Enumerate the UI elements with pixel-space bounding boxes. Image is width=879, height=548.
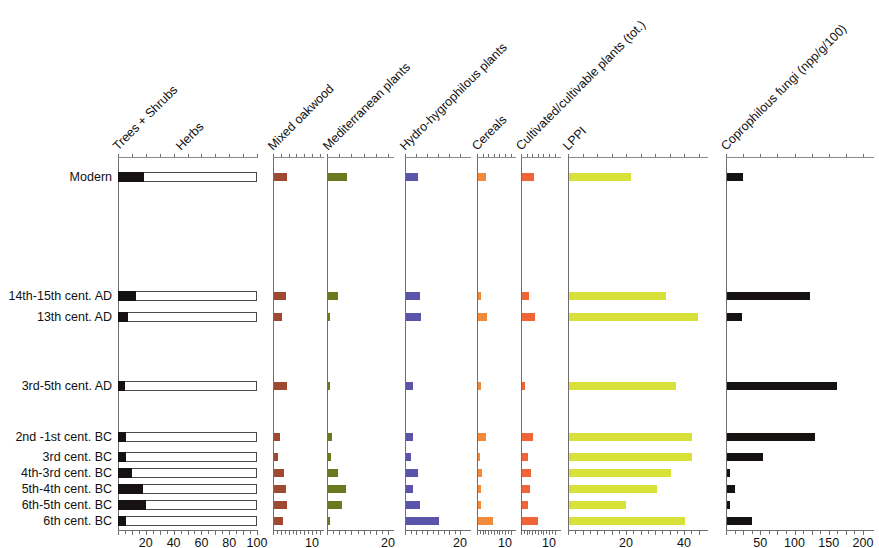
bar-mediterranean-plants (328, 382, 330, 390)
axis-tick-minor (316, 531, 317, 534)
bar-lppi (569, 313, 698, 321)
bar-hydro-hygrophilous-plants (406, 433, 413, 441)
axis-tick-minor (222, 531, 223, 534)
bar-hydro-hygrophilous-plants (406, 173, 418, 181)
bar-trees-shrubs (118, 432, 126, 442)
axis-tick-top (118, 154, 119, 157)
row-label: 2nd -1st cent. BC (15, 431, 112, 444)
axis-tick-minor (633, 531, 634, 534)
axis-tick-minor (535, 531, 536, 534)
axis-tick-label: 60 (194, 536, 208, 548)
axis-tick-top (777, 154, 778, 157)
axis-tick (812, 531, 813, 535)
bar-cereals (478, 453, 480, 461)
axis-tick-label: 100 (784, 536, 805, 548)
axis-tick-minor (604, 531, 605, 534)
axis-tick-top (612, 154, 613, 157)
bar-cultivated-cultivable-plants (522, 433, 533, 441)
axis-tick-minor (803, 531, 804, 534)
pollen-diagram-figure: Modern14th-15th cent. AD13th cent. AD3rd… (0, 0, 879, 548)
bar-cultivated-cultivable-plants (522, 485, 530, 493)
axis-tick-top (388, 154, 389, 157)
axis-tick-minor (619, 531, 620, 534)
axis-tick-minor (854, 531, 855, 534)
axis-tick-minor (345, 531, 346, 534)
bar-mixed-oakwood (274, 469, 284, 477)
axis-tick-top (641, 154, 642, 157)
axis-tick-top (427, 154, 428, 157)
axis-tick (273, 531, 274, 535)
bar-coprophilous-fungi (727, 433, 815, 441)
axis-tick-top (568, 154, 569, 157)
panel-top-rule (118, 157, 258, 158)
axis-tick-minor (250, 531, 251, 534)
bar-mixed-oakwood (274, 485, 286, 493)
bar-hydro-hygrophilous-plants (406, 485, 413, 493)
column-header: Coprophilous fungi (npp/g/100) (718, 22, 849, 153)
axis-tick (699, 531, 700, 535)
axis-tick-top (243, 154, 244, 157)
bar-herbs (118, 291, 257, 301)
axis-tick-minor (236, 531, 237, 534)
bar-cereals (478, 469, 482, 477)
axis-tick (612, 531, 613, 535)
axis-tick-top (364, 154, 365, 157)
axis-tick (296, 531, 297, 535)
axis-tick-top (846, 154, 847, 157)
axis-tick-top (304, 154, 305, 157)
axis-tick (538, 531, 539, 535)
panel-bottom-axis (327, 530, 394, 531)
axis-tick-label: 200 (853, 536, 874, 548)
axis-tick (477, 531, 478, 535)
axis-tick-top (376, 154, 377, 157)
axis-tick (846, 531, 847, 535)
axis-tick-minor (677, 531, 678, 534)
axis-tick-minor (575, 531, 576, 534)
axis-tick (460, 531, 461, 535)
axis-tick (327, 531, 328, 535)
axis-tick-top (655, 154, 656, 157)
bar-mixed-oakwood (274, 453, 278, 461)
axis-tick (511, 531, 512, 535)
axis-tick (583, 531, 584, 535)
bar-mediterranean-plants (328, 313, 330, 321)
bar-cereals (478, 382, 481, 390)
axis-tick-label: 50 (753, 536, 767, 548)
axis-tick-minor (293, 531, 294, 534)
axis-tick-minor (300, 531, 301, 534)
bar-cereals (478, 501, 481, 509)
axis-tick-label: 10 (542, 536, 556, 548)
bar-trees-shrubs (118, 500, 146, 510)
axis-tick (449, 531, 450, 535)
bar-trees-shrubs (118, 468, 132, 478)
axis-tick-top (339, 154, 340, 157)
bar-mediterranean-plants (328, 453, 331, 461)
axis-tick-top (527, 154, 528, 157)
axis-tick-top (829, 154, 830, 157)
bar-trees-shrubs (118, 291, 136, 301)
bar-mixed-oakwood (274, 292, 286, 300)
axis-tick-minor (125, 531, 126, 534)
row-label: 3rd-5th cent. AD (22, 380, 112, 393)
axis-tick-top (257, 154, 258, 157)
axis-tick (416, 531, 417, 535)
axis-tick-label: 20 (453, 536, 467, 548)
axis-tick-label: 150 (818, 536, 839, 548)
axis-tick (655, 531, 656, 535)
row-label: Modern (70, 171, 112, 184)
bar-cereals (478, 313, 487, 321)
axis-tick (543, 531, 544, 535)
axis-tick-minor (333, 531, 334, 534)
axis-tick-top (483, 154, 484, 157)
axis-tick-top (289, 154, 290, 157)
axis-tick-top (543, 154, 544, 157)
column-header: Herbs (173, 120, 206, 153)
bar-cultivated-cultivable-plants (522, 517, 538, 525)
bar-mediterranean-plants (328, 173, 347, 181)
bar-coprophilous-fungi (727, 469, 730, 477)
axis-tick-minor (769, 531, 770, 534)
bar-trees-shrubs (118, 172, 144, 182)
bar-mediterranean-plants (328, 433, 332, 441)
axis-tick-minor (308, 531, 309, 534)
axis-tick-minor (508, 531, 509, 534)
